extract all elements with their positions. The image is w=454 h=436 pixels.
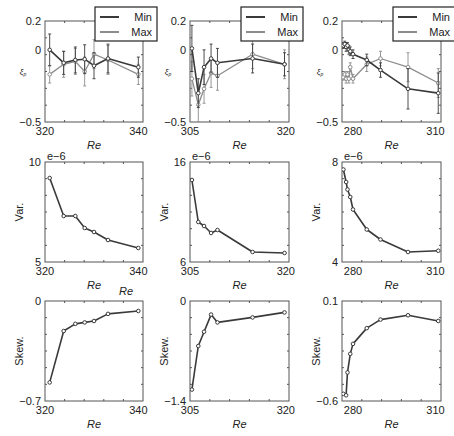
data-point — [197, 220, 201, 224]
data-point — [379, 57, 383, 61]
x-tick-label-left: 280 — [344, 125, 362, 137]
plot-area — [48, 34, 140, 86]
data-point — [137, 246, 141, 250]
data-point — [197, 344, 201, 348]
data-point — [92, 319, 96, 323]
y-tick-label-bottom: 4 — [332, 256, 338, 268]
data-point — [379, 318, 383, 322]
y-axis-label-subscript: p — [319, 71, 323, 77]
y-axis-label-subscript: p — [167, 71, 171, 77]
plot-area — [190, 178, 286, 255]
y-scale-exponent: e−6 — [344, 150, 363, 162]
legend-label-min: Min — [432, 11, 450, 23]
data-point — [436, 319, 440, 323]
x-tick-label-right: 310 — [426, 125, 444, 137]
data-point — [197, 91, 201, 95]
plot-area — [342, 41, 440, 113]
x-axis-label: Re — [384, 418, 398, 430]
data-point — [190, 77, 194, 81]
data-point — [406, 313, 410, 317]
data-point — [436, 91, 440, 95]
data-point — [348, 352, 352, 356]
x-axis-label: Re — [384, 279, 398, 291]
y-axis-label: Var. — [158, 203, 170, 222]
y-scale-exponent: e−6 — [192, 150, 211, 162]
y-scale-exponent: e−6 — [47, 150, 66, 162]
y-axis-label: ξp — [20, 67, 27, 77]
y-tick-label-top: 0.2 — [323, 15, 338, 27]
x-tick-label-right: 340 — [129, 404, 147, 416]
y-tick-label-top: 10 — [29, 156, 41, 168]
x-tick-label-right: 310 — [426, 404, 444, 416]
data-point — [348, 65, 352, 69]
data-point — [209, 231, 213, 235]
data-point — [346, 73, 350, 77]
axes-frame — [342, 301, 441, 401]
panel-row1-col1: 0.2−0.50320340ReξpMinMax — [19, 7, 157, 151]
data-point — [346, 371, 350, 375]
data-point — [344, 393, 348, 397]
legend-label-min: Min — [134, 11, 152, 23]
series-line-max — [343, 59, 438, 84]
data-point — [379, 238, 383, 242]
x-tick-label-left: 280 — [344, 265, 362, 277]
y-tick-label-top: 0.1 — [323, 295, 338, 307]
data-point — [346, 188, 350, 192]
data-point — [365, 326, 369, 330]
axes-frame — [342, 162, 441, 262]
data-point — [137, 309, 141, 313]
panel-row3-col1: 0−0.7320340ReSkew.Re — [13, 285, 148, 430]
x-tick-label-left: 305 — [181, 125, 199, 137]
y-axis-label: Skew. — [158, 336, 170, 365]
data-point — [251, 316, 255, 320]
x-tick-label-right: 320 — [277, 404, 295, 416]
plot-area — [48, 309, 140, 384]
y-tick-label-top: 0.2 — [171, 15, 186, 27]
data-point — [406, 250, 410, 254]
legend: MinMax — [241, 7, 303, 41]
data-point — [190, 388, 194, 392]
data-point — [106, 312, 110, 316]
y-axis-label: Var. — [13, 203, 25, 222]
y-tick-label-zero: 0 — [35, 44, 41, 56]
legend-label-max: Max — [277, 26, 298, 38]
chart-canvas: 0.2−0.50320340ReξpMinMax0.2−0.50305320Re… — [0, 0, 454, 436]
axes-frame — [45, 301, 143, 401]
panel-row2-col3: 84280310ReVar.e−6 — [310, 150, 445, 291]
data-point — [216, 228, 220, 232]
y-tick-label-zero: 0 — [180, 44, 186, 56]
x-tick-label-right: 320 — [277, 125, 295, 137]
data-point — [283, 311, 287, 315]
data-point — [48, 176, 52, 180]
data-point — [351, 342, 355, 346]
data-point — [216, 321, 220, 325]
x-tick-label-right: 310 — [426, 265, 444, 277]
data-point — [74, 58, 78, 62]
data-point — [74, 214, 78, 218]
plot-area — [342, 313, 440, 397]
data-point — [62, 61, 66, 65]
panel-row2-col1: 105320340ReVar.e−6 — [13, 150, 148, 291]
data-point — [48, 381, 52, 385]
series-line-skew — [343, 315, 438, 395]
data-point — [347, 77, 351, 81]
panel-row1-col2: 0.2−0.50305320ReξpMinMax — [164, 7, 303, 151]
data-point — [106, 238, 110, 242]
data-point — [351, 208, 355, 212]
x-tick-label-right: 320 — [277, 265, 295, 277]
x-tick-label-right: 340 — [129, 265, 147, 277]
data-point — [92, 64, 96, 68]
data-point — [92, 230, 96, 234]
series-line-var — [343, 170, 438, 253]
data-point — [137, 65, 141, 69]
data-point — [406, 87, 410, 91]
y-tick-label-top: 0.2 — [26, 15, 41, 27]
data-point — [202, 224, 206, 228]
data-point — [436, 249, 440, 253]
plot-area — [190, 311, 286, 392]
y-tick-label-top: 0 — [35, 295, 41, 307]
legend: MinMax — [95, 7, 157, 41]
x-tick-label-left: 320 — [36, 404, 54, 416]
data-point — [283, 251, 287, 255]
data-point — [342, 168, 346, 172]
